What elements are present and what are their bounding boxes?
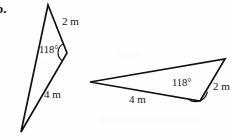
right-triangle-side-long-label: 4 m xyxy=(129,94,146,105)
scan-artifact xyxy=(118,52,140,57)
right-triangle-side-short-label: 2 m xyxy=(213,81,230,92)
left-triangle-side-short-label: 2 m xyxy=(62,16,79,27)
part-letter: b. xyxy=(0,2,6,15)
left-triangle xyxy=(21,5,67,132)
right-triangle-angle-label: 118° xyxy=(172,78,192,89)
left-triangle-angle-arc-icon xyxy=(58,44,63,61)
left-triangle-side-long-label: 4 m xyxy=(44,89,61,100)
right-triangle xyxy=(90,59,225,102)
left-triangle-angle-label: 118° xyxy=(39,45,59,56)
right-triangle-outline xyxy=(90,59,225,101)
scan-artifact xyxy=(100,116,200,125)
figure-container: b. 2 m 118° 4 m 118° 2 m 4 m xyxy=(0,0,230,137)
left-triangle-outline xyxy=(21,5,67,132)
